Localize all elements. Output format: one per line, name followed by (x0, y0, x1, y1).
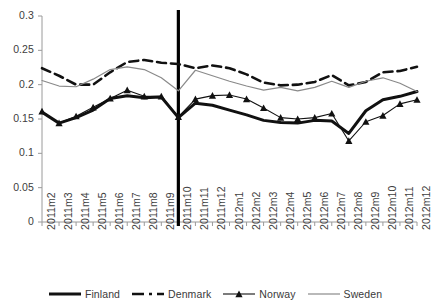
x-axis-tick-label: 2012m7 (336, 191, 346, 230)
series-sweden (42, 67, 417, 92)
series-marker (260, 104, 267, 111)
x-axis-tick-label: 2012m6 (319, 191, 329, 230)
x-axis-tick-label: 2012m10 (387, 186, 397, 230)
x-axis-tick-label: 2011m12 (216, 186, 226, 230)
series-marker (379, 112, 386, 119)
x-axis-tick-label: 2011m5 (97, 192, 107, 230)
x-axis-tick-label: 2012m12 (421, 186, 431, 230)
legend-label: Sweden (344, 288, 383, 300)
legend-item-norway: Norway (222, 288, 295, 300)
x-axis-tick-label: 2011m7 (131, 192, 141, 230)
x-axis-tick-label: 2011m9 (165, 192, 175, 230)
legend-key-solid-gray (307, 288, 341, 300)
legend-key-triangle-line (222, 288, 256, 300)
legend-label: Norway (259, 288, 295, 300)
series-line (42, 67, 417, 92)
series-marker (362, 118, 369, 125)
series-marker (38, 108, 45, 115)
x-axis-tick-label: 2012m8 (353, 191, 363, 230)
x-axis-tick-label: 2012m2 (251, 191, 261, 230)
chart-legend: FinlandDenmarkNorwaySweden (0, 283, 430, 305)
x-axis-tick-label: 2012m1 (234, 191, 244, 230)
y-axis-tick-label: 0.15 (0, 113, 34, 123)
legend-key-dashed (131, 288, 165, 300)
series-marker (413, 96, 420, 103)
x-axis-tick-label: 2011m11 (199, 187, 209, 230)
y-axis-tick-label: 0.1 (0, 147, 34, 157)
x-axis-tick-label: 2011m3 (63, 192, 73, 230)
legend-item-denmark: Denmark (131, 288, 211, 300)
x-axis-tick-label: 2011m8 (148, 192, 158, 230)
x-axis-tick-label: 2011m4 (80, 192, 90, 230)
legend-item-finland: Finland (48, 288, 120, 300)
legend-label: Finland (85, 288, 120, 300)
y-axis-tick-label: 0 (0, 216, 34, 226)
x-axis-tick-label: 2011m6 (114, 192, 124, 230)
legend-label: Denmark (168, 288, 211, 300)
y-axis-tick-label: 0.3 (0, 10, 34, 20)
x-axis-tick-label: 2012m5 (302, 191, 312, 230)
legend-item-sweden: Sweden (307, 288, 383, 300)
x-axis-tick-label: 2012m9 (370, 191, 380, 230)
x-axis-tick-label: 2012m11 (404, 186, 414, 230)
x-axis-tick-label: 2012m4 (285, 191, 295, 230)
y-axis-tick-label: 0.05 (0, 182, 34, 192)
legend-key-solid-thick (48, 288, 82, 300)
series-marker (124, 87, 131, 94)
x-axis-tick-label: 2011m2 (46, 192, 56, 230)
y-axis-tick-label: 0.25 (0, 44, 34, 54)
x-axis-tick-label: 2012m3 (268, 191, 278, 230)
series-marker (328, 110, 335, 117)
y-axis-tick-label: 0.2 (0, 79, 34, 89)
x-axis-tick-label: 2011m10 (182, 186, 192, 230)
